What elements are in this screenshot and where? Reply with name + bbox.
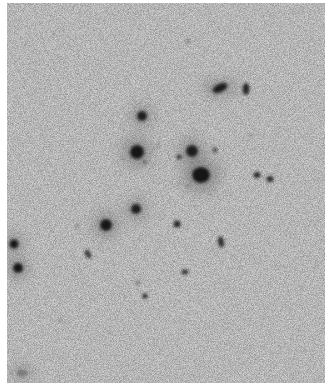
galaxy-object (100, 219, 112, 231)
galaxy-object (243, 83, 250, 95)
galaxy-object (182, 270, 189, 275)
galaxy-object (144, 161, 147, 164)
galaxy-object (17, 370, 27, 376)
galaxy-object (177, 155, 182, 160)
galaxy-object (174, 221, 181, 228)
galaxy-object (75, 224, 79, 228)
galaxy-object (131, 204, 141, 214)
galaxy-object (59, 319, 62, 322)
galaxy-object (267, 176, 274, 182)
galaxy-object (192, 167, 210, 183)
galaxy-object (185, 40, 191, 43)
galaxy-object (137, 111, 147, 121)
galaxy-object (137, 281, 140, 285)
galaxy-cluster-image (7, 3, 325, 383)
sky-field (7, 3, 325, 383)
galaxy-object (143, 294, 148, 299)
galaxy-object (130, 145, 144, 159)
galaxy-object (249, 134, 251, 136)
galaxy-object (13, 263, 23, 273)
galaxy-object (187, 185, 189, 187)
galaxy-object (157, 145, 159, 147)
galaxy-object (186, 145, 198, 157)
galaxy-object (254, 172, 261, 178)
galaxy-object (213, 147, 218, 153)
galaxy-object (10, 240, 19, 249)
